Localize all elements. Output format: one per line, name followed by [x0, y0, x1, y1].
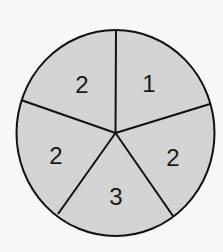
spinner-diagram: 1 2 3 2 2 [0, 0, 223, 252]
section-label-top-right: 1 [142, 70, 155, 97]
spoke-top [116, 30, 117, 133]
section-label-top-left: 2 [75, 71, 88, 98]
section-label-right: 2 [166, 144, 179, 171]
section-label-bottom: 3 [109, 183, 122, 210]
section-label-left: 2 [49, 142, 62, 169]
